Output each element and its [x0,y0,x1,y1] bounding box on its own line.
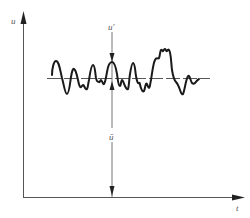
mean-arrow-down-icon [110,186,115,196]
x-axis [23,195,245,201]
measurement-line [110,30,115,197]
fluctuation-arrow-down-icon [110,53,115,62]
diagram-svg: u t u′ ū [0,0,250,218]
y-axis [21,11,27,197]
fluctuation-label: u′ [108,22,116,32]
x-axis-label: t [236,203,239,213]
x-axis-arrow-icon [232,195,245,201]
y-axis-arrow-icon [21,11,27,24]
diagram-canvas: u t u′ ū [0,0,250,218]
velocity-signal [52,49,199,94]
mean-label: ū [109,132,114,142]
y-axis-label: u [11,16,16,26]
mean-arrow-up-icon [110,81,115,90]
